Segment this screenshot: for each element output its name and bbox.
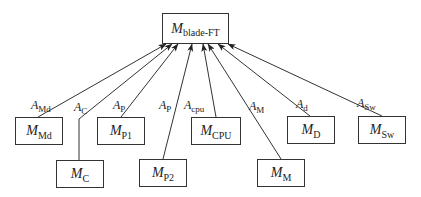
label-subscript: M <box>256 105 264 115</box>
node-c: MC <box>56 160 104 188</box>
node-subscript: Sw <box>381 129 394 140</box>
node-symbol: M <box>171 21 183 37</box>
node-symbol: M <box>370 122 382 138</box>
node-subscript: M <box>282 172 291 183</box>
node-subscript: P1 <box>122 130 133 141</box>
node-symbol: M <box>302 122 314 138</box>
node-root-blade-ft: Mblade-FT <box>162 13 229 44</box>
label-subscript: Sw <box>364 102 376 112</box>
label-subscript: P <box>166 104 171 114</box>
edge-label-md: AMd <box>31 94 51 113</box>
node-d: MD <box>287 116 335 144</box>
node-p2: MP2 <box>139 159 187 187</box>
edge-label-m: AM <box>249 95 264 114</box>
label-subscript: C <box>81 106 87 116</box>
edge-label-p2: AP <box>159 94 171 113</box>
node-sw: MSw <box>358 116 406 144</box>
node-symbol: M <box>110 123 122 139</box>
edge-label-d: Ad <box>296 93 308 112</box>
node-subscript: blade-FT <box>183 27 220 38</box>
label-subscript: d <box>303 103 308 113</box>
node-symbol: M <box>71 166 83 182</box>
node-md: MMd <box>15 117 63 145</box>
node-symbol: M <box>26 123 38 139</box>
node-subscript: D <box>313 129 320 140</box>
node-subscript: C <box>83 173 90 184</box>
label-subscript: P <box>120 104 125 114</box>
node-symbol: M <box>271 165 283 181</box>
node-p1: MP1 <box>97 117 145 145</box>
node-m: MM <box>257 159 305 187</box>
edge-label-p1: AP <box>113 94 125 113</box>
node-subscript: P2 <box>164 172 175 183</box>
label-subscript: cpu <box>191 104 204 114</box>
label-subscript: Md <box>38 104 51 114</box>
edge-label-cpu: Acpu <box>184 94 204 113</box>
edge-label-sw: ASw <box>357 92 376 111</box>
node-symbol: M <box>152 165 164 181</box>
node-subscript: CPU <box>212 130 231 141</box>
edge-label-c: AC <box>74 96 87 115</box>
edge-cpu <box>203 44 216 117</box>
node-subscript: Md <box>38 130 52 141</box>
node-symbol: M <box>200 123 212 139</box>
node-cpu: MCPU <box>191 117 241 145</box>
edge-md <box>38 44 166 117</box>
